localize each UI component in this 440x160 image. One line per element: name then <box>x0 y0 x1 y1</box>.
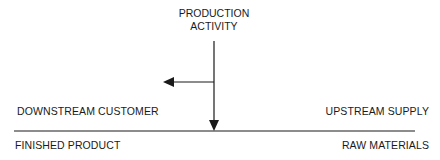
down-arrowhead-icon <box>209 120 219 131</box>
upstream-supply-label: UPSTREAM SUPPLY <box>326 105 429 117</box>
downstream-customer-label: DOWNSTREAM CUSTOMER <box>17 105 159 117</box>
left-arrowhead-icon <box>163 77 174 87</box>
flow-diagram <box>0 0 440 160</box>
raw-materials-label: RAW MATERIALS <box>342 139 429 151</box>
finished-product-label: FINISHED PRODUCT <box>15 139 120 151</box>
